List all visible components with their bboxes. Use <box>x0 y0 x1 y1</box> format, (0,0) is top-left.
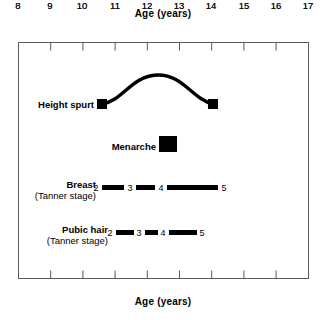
bottom-axis-ticks <box>19 271 309 279</box>
row-label-menarche-main: Menarche <box>112 141 156 152</box>
height-spurt-start-marker <box>97 99 107 109</box>
plot-frame-svg <box>0 0 326 320</box>
breast-bar-4-to-5 <box>167 185 218 190</box>
row-label-pubic-hair-sub: (Tanner stage) <box>47 235 108 246</box>
row-label-height-spurt: Height spurt <box>38 99 94 110</box>
height-spurt-end-marker <box>208 99 218 109</box>
pubic-stage-label-3: 3 <box>132 229 146 238</box>
pubic-bar-4-to-5 <box>169 230 197 235</box>
row-label-breast-main: Breast <box>35 179 96 190</box>
pubic-stage-label-5: 5 <box>195 229 209 238</box>
pubic-stage-label-2: 2 <box>103 229 117 238</box>
row-label-menarche: Menarche <box>112 141 156 152</box>
row-label-breast-sub: (Tanner stage) <box>35 190 96 201</box>
height-spurt-curve <box>102 75 213 104</box>
top-axis-ticks <box>19 43 309 51</box>
row-label-pubic-hair-main: Pubic hair <box>47 224 108 235</box>
row-label-breast: Breast (Tanner stage) <box>35 179 96 201</box>
row-label-height-spurt-main: Height spurt <box>38 99 94 110</box>
puberty-timeline-figure: Age (years) 8 9 10 11 12 13 14 15 16 17 … <box>0 0 326 320</box>
menarche-marker <box>159 136 177 152</box>
breast-bar-3-to-4 <box>136 185 155 190</box>
pubic-stage-label-4: 4 <box>156 229 170 238</box>
breast-stage-label-3: 3 <box>123 184 137 193</box>
breast-stage-label-2: 2 <box>89 184 103 193</box>
row-label-pubic-hair: Pubic hair (Tanner stage) <box>47 224 108 246</box>
breast-stage-label-5: 5 <box>217 184 231 193</box>
breast-stage-label-4: 4 <box>154 184 168 193</box>
breast-bar-2-to-3 <box>102 185 124 190</box>
